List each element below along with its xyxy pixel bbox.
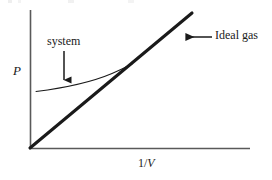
ideal-gas-annotation-label: Ideal gas xyxy=(215,29,258,41)
x-axis-label: 1/V xyxy=(138,157,155,169)
x-axis-label-variable: V xyxy=(147,156,154,170)
system-curve xyxy=(36,64,132,92)
plot-canvas xyxy=(0,0,272,180)
figure-container: P 1/V system Ideal gas xyxy=(0,0,272,180)
x-axis-label-numerator: 1/ xyxy=(138,156,147,170)
system-annotation-label: system xyxy=(47,35,80,47)
y-axis-label: P xyxy=(13,64,21,77)
